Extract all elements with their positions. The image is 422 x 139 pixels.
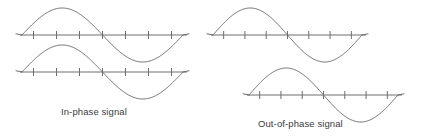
- sine-wave-tail: [183, 34, 189, 35]
- sine-wave-tail: [243, 94, 249, 95]
- waveform-panel-in-phase-top: [16, 8, 189, 62]
- caption-out-of-phase: Out-of-phase signal: [258, 118, 343, 129]
- signal-phase-figure: In-phase signal Out-of-phase signal: [0, 0, 422, 139]
- waveform-panel-out-of-phase-top: [207, 8, 368, 62]
- waveform-panels: [16, 8, 404, 122]
- sine-wave-tail: [16, 34, 22, 35]
- waveform-panel-out-of-phase-bottom: [243, 68, 404, 122]
- waveform-panel-in-phase-bottom: [16, 45, 189, 99]
- sine-wave-tail: [362, 34, 368, 35]
- sine-wave-tail: [183, 71, 189, 72]
- waveform-canvas: [0, 0, 422, 139]
- caption-in-phase: In-phase signal: [61, 106, 127, 117]
- sine-wave-tail: [398, 94, 404, 95]
- sine-wave-tail: [207, 34, 213, 35]
- sine-wave-tail: [16, 71, 22, 72]
